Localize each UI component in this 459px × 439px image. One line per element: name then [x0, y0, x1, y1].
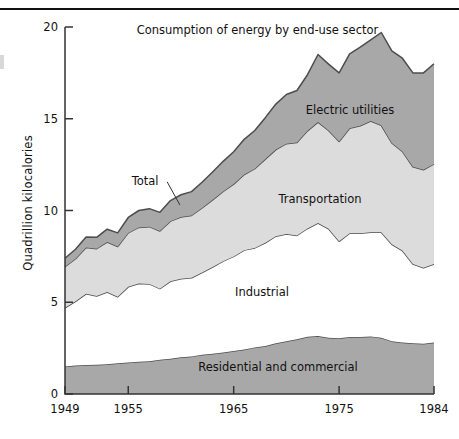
x-tick-label-1965: 1965 [219, 402, 248, 416]
x-tick-label-1984: 1984 [419, 402, 448, 416]
stacked-area-chart: 0510152019491955196519751984 Consumption… [0, 0, 459, 439]
x-tick-label-1949: 1949 [50, 402, 79, 416]
y-tick-label-15: 15 [43, 112, 58, 126]
annotation-total: Total [131, 174, 159, 188]
y-tick-label-5: 5 [51, 295, 58, 309]
series-label-industrial: Industrial [235, 285, 289, 299]
area-series-group [65, 33, 434, 395]
y-tick-label-10: 10 [43, 204, 58, 218]
series-label-residential-and-commercial: Residential and commercial [198, 360, 357, 374]
chart-title: Consumption of energy by end-use sector [137, 23, 379, 37]
x-tick-label-1955: 1955 [114, 402, 143, 416]
y-tick-label-20: 20 [43, 20, 58, 34]
series-label-transportation: Transportation [277, 192, 361, 206]
y-tick-label-0: 0 [51, 387, 58, 401]
energy-consumption-figure: Quadrillion kilocalories 051015201949195… [0, 0, 459, 439]
x-tick-label-1975: 1975 [324, 402, 353, 416]
series-label-electric-utilities: Electric utilities [306, 103, 394, 117]
